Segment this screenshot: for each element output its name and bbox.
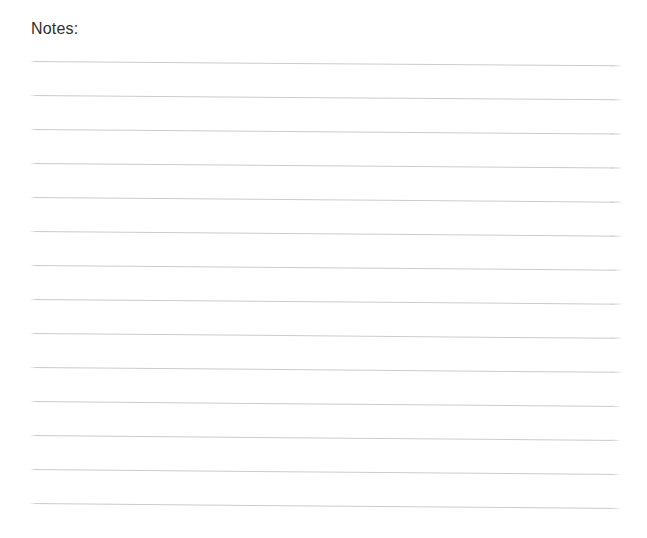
ruled-line xyxy=(30,129,621,135)
ruled-line xyxy=(30,299,621,305)
ruled-line xyxy=(30,401,621,407)
ruled-line xyxy=(30,61,621,66)
ruled-line xyxy=(30,265,621,271)
ruled-line xyxy=(30,95,621,100)
notes-page: Notes: xyxy=(0,0,647,538)
ruled-lines-area xyxy=(0,0,647,538)
ruled-line xyxy=(30,231,621,237)
ruled-line xyxy=(30,367,621,373)
ruled-line xyxy=(30,469,621,475)
ruled-line xyxy=(30,197,621,203)
ruled-line xyxy=(30,503,621,509)
ruled-line xyxy=(30,435,621,441)
ruled-line xyxy=(30,163,621,169)
ruled-line xyxy=(30,333,621,339)
